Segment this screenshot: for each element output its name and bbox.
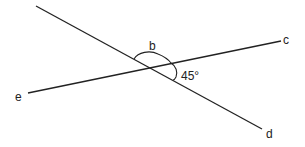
diagram-svg (0, 0, 305, 147)
label-b: b (149, 40, 156, 52)
label-c: c (283, 34, 289, 46)
label-e: e (15, 91, 22, 103)
angle-45-arc (171, 63, 177, 80)
label-angle-45: 45° (181, 70, 199, 82)
label-d: d (266, 128, 273, 140)
angle-b-arc (134, 52, 171, 63)
diagram-canvas: b c e d 45° (0, 0, 305, 147)
